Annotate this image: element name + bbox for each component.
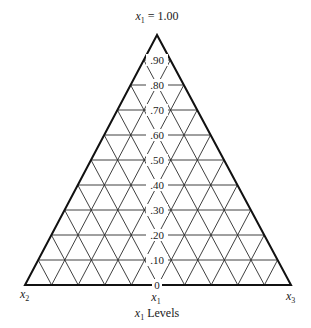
grid-line-x2 — [264, 260, 277, 285]
caption: x1 Levels — [134, 306, 180, 322]
level-label: .30 — [150, 204, 164, 216]
grid-line-x3 — [65, 210, 105, 285]
grid-line-x2 — [158, 160, 224, 285]
ternary-diagram: .90.80.70.60.50.40.30.20.100 x1 = 1.00 x… — [0, 0, 311, 328]
grid-line-x2 — [52, 60, 171, 285]
level-label: .80 — [150, 79, 164, 91]
level-label: .10 — [150, 254, 164, 266]
bottom-axis-label: x1 — [150, 290, 160, 306]
level-label: .40 — [150, 179, 164, 191]
grid-line-x3 — [38, 260, 51, 285]
level-label: .20 — [150, 229, 164, 241]
vertex-label-x2: x2 — [19, 287, 29, 303]
apex-label: x1 = 1.00 — [134, 9, 178, 25]
level-label: .90 — [150, 54, 164, 66]
grid-line-x3 — [144, 60, 265, 285]
grid-line-x2 — [211, 210, 251, 285]
vertex-label-x3: x3 — [285, 289, 295, 305]
level-label: .60 — [150, 129, 164, 141]
grid-line-x3 — [91, 160, 158, 285]
level-label: .70 — [150, 104, 164, 116]
level-label: .50 — [150, 154, 164, 166]
grid-lines — [38, 60, 277, 285]
